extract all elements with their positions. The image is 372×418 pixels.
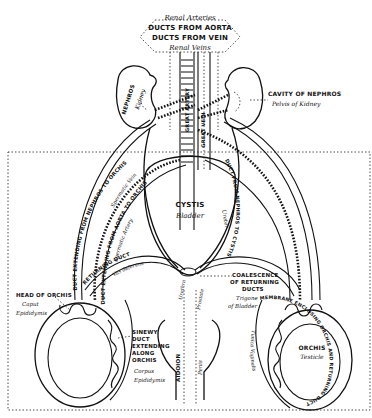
renal-veins-label: Renal Veins: [168, 44, 211, 52]
ducts-from-vein-label: DUCTS FROM VEIN: [152, 34, 228, 42]
penis-label: Penis: [197, 360, 203, 376]
kidney-left: NEPHROS Kidney: [117, 66, 157, 128]
coalescence-line1: COALESCENCE: [232, 272, 278, 278]
head-of-orchis-pointer: [55, 297, 70, 310]
trigone-label: Trigone: [236, 295, 258, 302]
sinewy-line1: SINEWY: [132, 329, 158, 335]
right-testicle: ORCHIS Testicle: [256, 300, 352, 410]
vein-label: GREAT VEIN: [200, 112, 206, 147]
anatomy-diagram: Renal Arteries DUCTS FROM AORTA DUCTS FR…: [0, 0, 372, 418]
cavity-of-nephros-label: CAVITY OF NEPHROS Pelvis of Kidney: [268, 90, 341, 108]
ureter-label: Ureter: [221, 209, 230, 229]
caput-label: Caput: [22, 301, 40, 308]
body-frame: [8, 152, 370, 410]
epididymis-head-label: Epididymis: [15, 310, 47, 317]
testicle-label: Testicle: [300, 353, 324, 360]
epididymis-body-label: Epididymis: [133, 377, 165, 384]
renal-vessels: [155, 95, 228, 118]
kidney-right: [225, 68, 268, 129]
sinewy-line2: DUCT: [132, 336, 150, 342]
vas-deferens-label: Vas deferens: [111, 260, 144, 278]
nephros-label: NEPHROS: [120, 84, 135, 116]
coalescence-line3: DUCTS: [242, 286, 264, 292]
pelvis-of-kidney-label: Pelvis of Kidney: [271, 100, 321, 108]
sinewy-duct-pointer: [118, 336, 132, 338]
top-labels: Renal Arteries DUCTS FROM AORTA DUCTS FR…: [148, 14, 232, 52]
cystis-label: CYSTIS: [176, 201, 205, 209]
bladder-label: Bladder: [175, 212, 205, 220]
coalescence-line2: OF RETURNING: [230, 279, 279, 285]
sinewy-line5: ORCHIS: [132, 357, 157, 363]
head-of-orchis-title: HEAD OF ORCHIS: [16, 292, 72, 298]
coalescence-label: COALESCENCE OF RETURNING DUCTS Trigone o…: [228, 272, 279, 310]
corpus-label: Corpus: [134, 368, 154, 375]
cavity-of-nephros-title: CAVITY OF NEPHROS: [268, 90, 341, 97]
sinewy-line4: ALONG: [132, 350, 155, 356]
orchis-label: ORCHIS: [299, 344, 326, 351]
aidoion-label: AIDOION: [175, 354, 181, 382]
left-testicle: [35, 300, 132, 407]
kidney-label: Kidney: [133, 88, 148, 112]
urethra-label: Urethra: [177, 279, 186, 300]
aorta-label: GREAT ARTERY: [184, 88, 190, 132]
ducts-from-aorta-label: DUCTS FROM AORTA: [148, 24, 232, 32]
of-bladder-label: of Bladder: [228, 303, 257, 310]
sinewy-line3: EXTENDING: [132, 343, 170, 349]
renal-arteries-label: Renal Arteries: [163, 14, 216, 22]
